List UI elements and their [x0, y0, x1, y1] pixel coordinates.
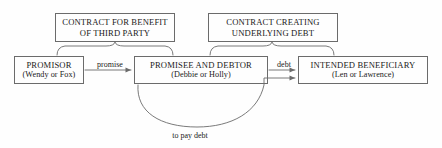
box-contract-creating-underlying-debt: CONTRACT CREATING UNDERLYING DEBT — [208, 13, 338, 42]
box-promisor: PROMISOR (Wendy or Fox) — [14, 56, 84, 84]
beneficiary-names: (Len or Lawrence) — [332, 70, 394, 80]
arrow-to-pay-debt-curve — [138, 78, 295, 127]
edge-label-debt: debt — [270, 60, 298, 69]
promisee-names: (Debbie or Holly) — [171, 70, 231, 80]
box-contract-debt-line2: UNDERLYING DEBT — [232, 28, 314, 38]
box-contract-for-benefit-of-third-party: CONTRACT FOR BENEFIT OF THIRD PARTY — [55, 13, 175, 42]
promisee-role: PROMISEE AND DEBTOR — [150, 60, 252, 70]
brace-contract-benefit — [57, 42, 173, 55]
brace-contract-debt — [210, 42, 334, 55]
box-contract-benefit-line2: OF THIRD PARTY — [80, 28, 150, 38]
box-promisee-and-debtor: PROMISEE AND DEBTOR (Debbie or Holly) — [134, 56, 268, 84]
promisor-role: PROMISOR — [26, 60, 71, 70]
box-intended-beneficiary: INTENDED BENEFICIARY (Len or Lawrence) — [298, 56, 428, 84]
beneficiary-role: INTENDED BENEFICIARY — [311, 60, 416, 70]
arrow-to-pay-debt-head — [290, 75, 296, 80]
edge-label-promise: promise — [88, 60, 132, 69]
third-party-beneficiary-diagram: CONTRACT FOR BENEFIT OF THIRD PARTY CONT… — [0, 0, 442, 148]
box-contract-debt-line1: CONTRACT CREATING — [226, 17, 319, 27]
promisor-names: (Wendy or Fox) — [23, 70, 76, 80]
box-contract-benefit-line1: CONTRACT FOR BENEFIT — [62, 17, 168, 27]
edge-label-to-pay-debt: to pay debt — [155, 131, 225, 140]
